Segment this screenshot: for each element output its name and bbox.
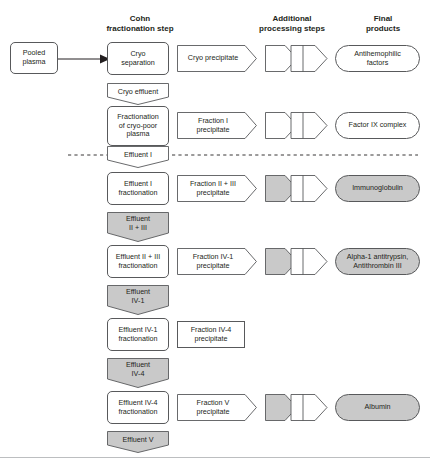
product-label: Albumin [365, 403, 391, 412]
node-effluent-i: Effluent I [107, 146, 169, 168]
effluent-label: Effluent V [107, 436, 169, 449]
node-product-albumin: Albumin [335, 394, 420, 421]
product-label: Antihemophilic factors [354, 50, 401, 67]
node-product-antihemophilic: Antihemophilic factors [335, 45, 420, 72]
effluent-label: Effluent IV-4 [107, 361, 169, 384]
step-label: Fractionation of cryo-poor plasma [117, 113, 159, 139]
step-label: Effluent IV-4 fractionation [118, 399, 157, 416]
cohn-fractionation-diagram: Cohn fractionation step Additional proce… [0, 0, 430, 468]
pooled-plasma-label: Pooled plasma [22, 49, 45, 66]
precipitate-label: Fraction IV-4 precipitate [191, 326, 232, 343]
precipitate-label: Fraction I precipitate [177, 117, 257, 134]
product-label: Factor IX complex [349, 121, 407, 130]
node-precipitate-fraction-i: Fraction I precipitate [177, 112, 257, 139]
step-label: Effluent IV-1 fractionation [118, 326, 157, 343]
node-precipitate-fraction-iv-1: Fraction IV-1 precipitate [177, 248, 257, 275]
node-product-factor-ix: Factor IX complex [335, 112, 420, 139]
node-step-effluent-iv-1: Effluent IV-1 fractionation [107, 318, 169, 351]
effluent-label: Effluent IV-1 [107, 288, 169, 311]
precipitate-label: Fraction IV-1 precipitate [177, 253, 257, 270]
column-header-additional: Additional processing steps [243, 14, 341, 33]
node-effluent-cryo: Cryo effluent [107, 83, 169, 105]
node-step-effluent-iv-4: Effluent IV-4 fractionation [107, 391, 169, 424]
effluent-label: Effluent I [107, 151, 169, 164]
effluent-label: Cryo effluent [107, 88, 169, 101]
node-step-cryo: Cryo separation [107, 42, 169, 75]
node-effluent-v: Effluent V [107, 431, 169, 453]
product-label: Alpha-1 antitrypsin, Antithrombin III [347, 253, 409, 270]
column-header-cohn: Cohn fractionation step [95, 14, 185, 33]
product-label: Immunoglobulin [352, 184, 403, 193]
node-precipitate-cryo: Cryo precipitate [177, 45, 257, 72]
node-effluent-ii-iii: Effluent II + III [107, 212, 169, 242]
precipitate-label: Cryo precipitate [177, 54, 257, 63]
processing-chevrons-fraction-i [265, 112, 327, 139]
step-label: Effluent I fractionation [118, 180, 157, 197]
node-product-immunoglobulin: Immunoglobulin [335, 175, 420, 202]
node-product-alpha1-antithrombin: Alpha-1 antitrypsin, Antithrombin III [335, 248, 420, 275]
column-header-final: Final products [340, 14, 426, 33]
precipitate-label: Fraction II + III precipitate [177, 180, 257, 197]
node-precipitate-fraction-iv-4: Fraction IV-4 precipitate [177, 321, 245, 348]
node-precipitate-fraction-ii-iii: Fraction II + III precipitate [177, 175, 257, 202]
node-effluent-iv-4: Effluent IV-4 [107, 358, 169, 388]
bottom-rule [0, 457, 430, 458]
node-pooled-plasma: Pooled plasma [10, 42, 58, 74]
node-step-effluent-ii-iii: Effluent II + III fractionation [107, 245, 169, 278]
node-precipitate-fraction-v: Fraction V precipitate [177, 394, 257, 421]
step-label: Effluent II + III fractionation [116, 253, 160, 270]
processing-chevrons-fraction-v [265, 394, 327, 421]
processing-chevrons-cryo [265, 45, 327, 72]
arrow-pooled-to-cryo [58, 51, 110, 67]
processing-chevrons-fraction-iv-1 [265, 248, 327, 275]
node-step-effluent-i: Effluent I fractionation [107, 172, 169, 205]
step-label: Cryo separation [121, 50, 155, 67]
precipitate-label: Fraction V precipitate [177, 399, 257, 416]
node-step-cryo-poor: Fractionation of cryo-poor plasma [107, 106, 169, 146]
processing-chevrons-fraction-ii-iii [265, 175, 327, 202]
node-effluent-iv-1: Effluent IV-1 [107, 285, 169, 315]
effluent-label: Effluent II + III [107, 215, 169, 238]
